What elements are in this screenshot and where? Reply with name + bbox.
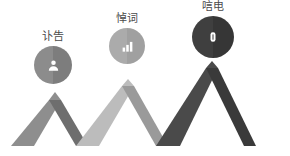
node-3-label: 唁电 xyxy=(202,0,225,13)
user-icon xyxy=(46,58,61,73)
chevron-2-right-face xyxy=(122,86,168,146)
node-1-badge[interactable] xyxy=(34,46,72,84)
bar-chart-icon xyxy=(121,40,134,53)
node-2-label: 悼词 xyxy=(116,12,139,25)
node-condolence-telegram[interactable]: 唁电 xyxy=(168,0,258,58)
node-2-badge[interactable] xyxy=(109,28,145,64)
chevron-3-left-face xyxy=(156,68,218,146)
document-icon xyxy=(207,31,219,43)
chevron-2-apex xyxy=(122,79,134,86)
chevron-3-apex xyxy=(206,61,218,68)
chevron-3[interactable] xyxy=(156,61,256,146)
chevron-3-right-face xyxy=(206,68,256,146)
node-eulogy[interactable]: 悼词 xyxy=(82,12,172,64)
node-3-badge[interactable] xyxy=(192,16,234,58)
chevron-1[interactable] xyxy=(11,92,88,146)
chevron-2[interactable] xyxy=(76,79,168,146)
node-1-label: 讣告 xyxy=(42,30,65,43)
chevron-1-apex xyxy=(49,92,61,100)
infographic-canvas: 讣告 悼词 唁电 xyxy=(0,0,290,156)
chevron-2-left-face xyxy=(76,86,134,146)
